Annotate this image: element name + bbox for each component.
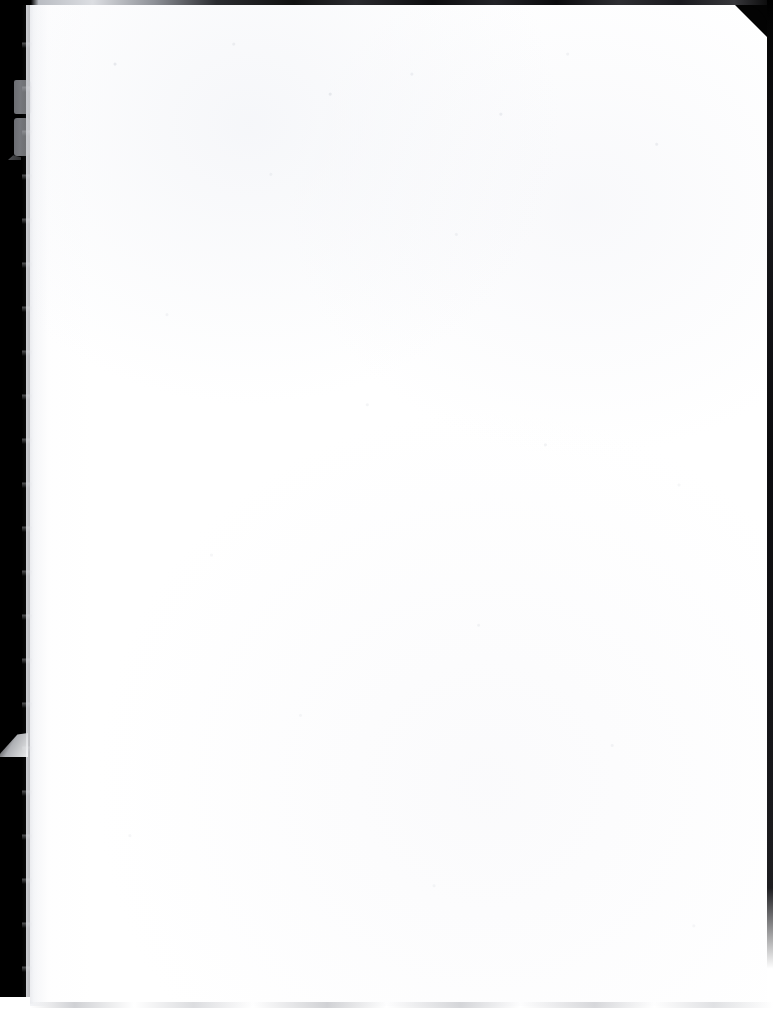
scanned-page-canvas (0, 0, 773, 1009)
scan-edge-right (767, 0, 773, 1009)
paper-tint-overlay (26, 4, 768, 1006)
gutter-foot (0, 997, 30, 1009)
paper-sheet (26, 4, 768, 1006)
scan-speckle-noise (26, 4, 768, 1006)
scan-edge-top (0, 0, 773, 5)
page-corner-clip-icon (734, 4, 768, 38)
scanner-gutter-left (0, 0, 30, 997)
